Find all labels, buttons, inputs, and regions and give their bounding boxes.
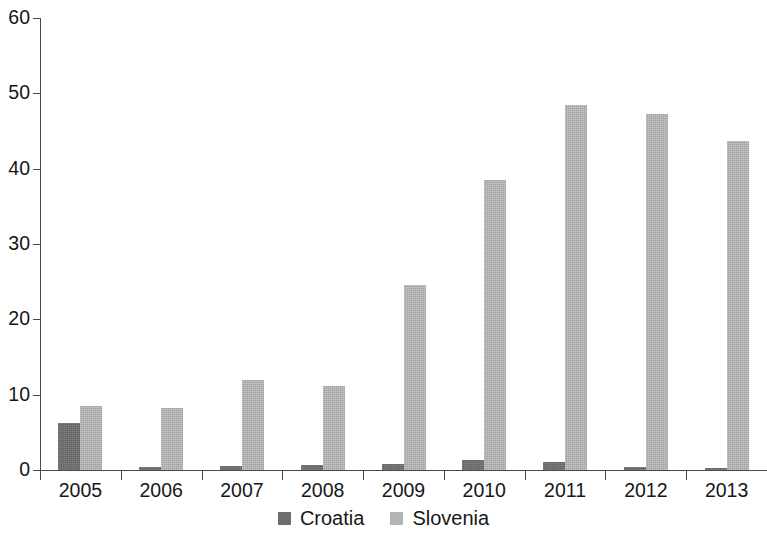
x-tick-2: [202, 471, 203, 480]
legend-swatch-slovenia: [390, 512, 403, 525]
y-tick-label-40: 40: [0, 159, 30, 179]
x-category-label-2009: 2009: [363, 481, 444, 501]
x-tick-1: [121, 471, 122, 480]
bar-croatia-2005[interactable]: [58, 423, 80, 470]
legend-item-slovenia[interactable]: Slovenia: [390, 508, 489, 528]
bar-croatia-2013[interactable]: [705, 468, 727, 470]
y-tick-label-20: 20: [0, 309, 30, 329]
legend-label-croatia: Croatia: [300, 508, 364, 528]
x-category-label-2005: 2005: [40, 481, 121, 501]
x-tick-5: [444, 471, 445, 480]
legend-swatch-croatia: [278, 512, 291, 525]
bar-slovenia-2012[interactable]: [646, 114, 668, 470]
x-category-label-2013: 2013: [686, 481, 767, 501]
x-tick-3: [282, 471, 283, 480]
y-tick-label-50: 50: [0, 83, 30, 103]
bar-slovenia-2011[interactable]: [565, 105, 587, 470]
x-category-label-2006: 2006: [121, 481, 202, 501]
x-tick-7: [605, 471, 606, 480]
chart-legend: Croatia Slovenia: [0, 508, 767, 528]
x-tick-4: [363, 471, 364, 480]
bar-slovenia-2010[interactable]: [484, 180, 506, 470]
bar-slovenia-2007[interactable]: [242, 380, 264, 470]
bar-croatia-2008[interactable]: [301, 465, 323, 470]
bar-slovenia-2005[interactable]: [80, 406, 102, 470]
y-tick-label-10: 10: [0, 385, 30, 405]
bar-slovenia-2009[interactable]: [404, 285, 426, 470]
y-tick-label-0: 0: [0, 460, 30, 480]
bar-slovenia-2008[interactable]: [323, 386, 345, 470]
y-tick-label-30: 30: [0, 234, 30, 254]
bar-slovenia-2006[interactable]: [161, 408, 183, 470]
bar-croatia-2011[interactable]: [543, 462, 565, 470]
y-tick-label-60: 60: [0, 8, 30, 28]
bar-croatia-2006[interactable]: [139, 467, 161, 470]
bar-croatia-2009[interactable]: [382, 464, 404, 470]
x-category-label-2011: 2011: [525, 481, 606, 501]
legend-item-croatia[interactable]: Croatia: [278, 508, 364, 528]
plot-area: [40, 18, 767, 470]
bar-slovenia-2013[interactable]: [727, 141, 749, 470]
x-category-label-2010: 2010: [444, 481, 525, 501]
x-tick-0: [40, 471, 41, 480]
bar-croatia-2010[interactable]: [462, 460, 484, 470]
x-category-label-2007: 2007: [202, 481, 283, 501]
bar-croatia-2012[interactable]: [624, 467, 646, 470]
x-category-label-2012: 2012: [605, 481, 686, 501]
x-axis-line: [40, 470, 767, 471]
bar-croatia-2007[interactable]: [220, 466, 242, 470]
legend-label-slovenia: Slovenia: [412, 508, 489, 528]
x-tick-8: [686, 471, 687, 480]
bar-chart: 0102030405060 20052006200720082009201020…: [0, 0, 767, 541]
x-tick-6: [525, 471, 526, 480]
x-category-label-2008: 2008: [282, 481, 363, 501]
